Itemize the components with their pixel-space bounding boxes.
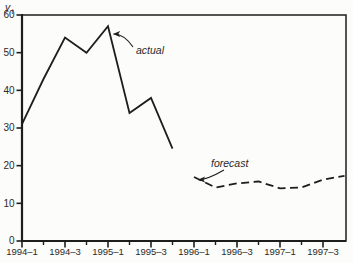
time-series-forecast-figure: 01020304050601994–11994–31995–11995–3199… bbox=[0, 0, 353, 263]
forecast-annotation-arrow bbox=[199, 170, 225, 180]
x-tick-label: 1995–1 bbox=[92, 246, 124, 257]
x-tick-label: 1997–3 bbox=[307, 246, 339, 257]
plot-border bbox=[22, 15, 346, 241]
x-tick-label: 1996–3 bbox=[221, 246, 253, 257]
y-tick-label: 50 bbox=[3, 47, 15, 58]
x-tick-label: 1997–1 bbox=[264, 246, 296, 257]
forecast-annotation-label: forecast bbox=[211, 157, 249, 169]
y-axis-title: y bbox=[4, 1, 11, 13]
y-tick-label: 20 bbox=[3, 160, 15, 171]
chart-canvas: 01020304050601994–11994–31995–11995–3199… bbox=[0, 0, 353, 263]
forecast-line bbox=[194, 176, 345, 189]
actual-annotation-label: actual bbox=[136, 44, 165, 56]
actual-annotation-arrow bbox=[114, 34, 134, 47]
x-tick-label: 1994–3 bbox=[49, 246, 81, 257]
y-tick-label: 30 bbox=[3, 122, 15, 133]
y-tick-label: 0 bbox=[9, 235, 15, 246]
y-tick-label: 10 bbox=[3, 198, 15, 209]
x-tick-label: 1995–3 bbox=[135, 246, 167, 257]
x-tick-label: 1996–1 bbox=[178, 246, 210, 257]
y-tick-label: 40 bbox=[3, 85, 15, 96]
x-tick-label: 1994–1 bbox=[6, 246, 38, 257]
